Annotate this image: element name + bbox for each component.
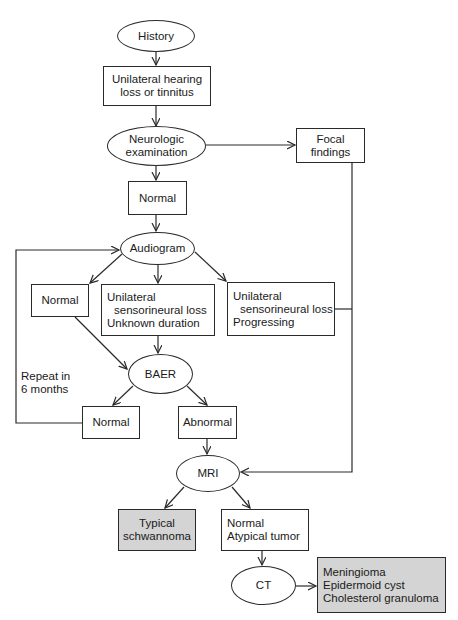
node-label: Typical [139,517,175,530]
node-label: sensorineural loss [233,303,333,316]
node-label: Unilateral [233,290,282,303]
node-label: Normal [139,192,176,205]
node-label: Cholesterol granuloma [323,592,439,605]
node-history: History [117,20,195,52]
node-label: Audiogram [130,242,186,255]
node-label: Meningioma [323,566,386,579]
node-unknown-duration: Unilateral sensorineural loss Unknown du… [101,284,215,336]
node-baer-normal: Normal [82,406,140,439]
node-label: Unilateral [107,291,156,304]
edge-audiogram-normal [90,254,122,283]
node-progressing: Unilateral sensorineural loss Progressin… [227,282,335,336]
node-label: examination [125,146,187,159]
node-label: BAER [145,368,176,381]
edge-baer-abnormal [187,386,207,405]
node-focal-findings: Focal findings [296,128,365,163]
node-label: schwannoma [123,530,191,543]
node-ct-results: Meningioma Epidermoid cyst Cholesterol g… [317,557,446,613]
node-label: loss or tinnitus [120,86,194,99]
node-label: Neurologic [129,133,184,146]
node-audiogram: Audiogram [120,232,195,265]
node-label: Normal [92,416,129,429]
node-baer-abnormal: Abnormal [178,406,237,439]
node-audio-normal: Normal [31,284,89,317]
node-label: CT [256,579,271,592]
node-label: Unknown duration [107,317,200,330]
node-label: findings [311,146,351,159]
node-ct: CT [231,566,296,605]
node-label: MRI [197,467,218,480]
node-mri: MRI [176,455,240,492]
edge-repeat-loop [16,250,119,423]
node-atypical: Normal Atypical tumor [221,509,309,551]
node-neuro-normal: Normal [128,181,187,215]
node-label: Progressing [233,316,294,329]
node-neuro-exam: Neurologic examination [107,126,206,166]
node-label: Normal [227,517,264,530]
node-label: Unilateral hearing [112,73,202,86]
node-label: Focal [316,133,344,146]
node-hearing-loss: Unilateral hearing loss or tinnitus [103,66,211,106]
repeat-loop-label: Repeat in 6 months [21,370,70,396]
edge-baer-normal [113,386,133,405]
node-label: Normal [41,294,78,307]
edge-audiogram-progressing [195,252,226,281]
node-baer: BAER [128,354,193,394]
node-label: sensorineural loss [107,304,207,317]
node-label: Abnormal [183,416,232,429]
edge-mri-schwannoma [165,487,184,508]
node-label: Epidermoid cyst [323,579,405,592]
node-label: History [138,30,174,43]
edge-mri-atypical [232,487,250,508]
node-label: Atypical tumor [227,530,300,543]
node-schwannoma: Typical schwannoma [118,509,196,551]
